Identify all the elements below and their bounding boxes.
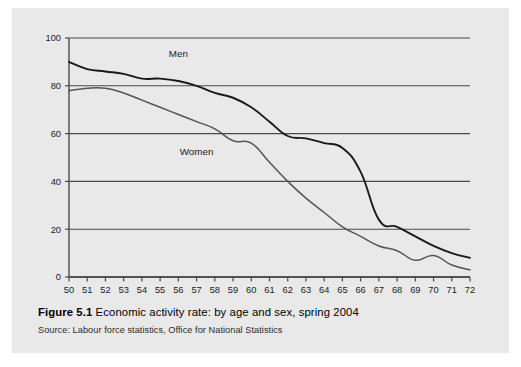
figure-source: Source: Labour force statistics, Office … — [38, 325, 488, 337]
x-tick-label: 55 — [155, 285, 165, 295]
x-tick-label: 61 — [264, 285, 274, 295]
series-lines — [69, 62, 470, 270]
chart-plot-area: 020406080100 505152535455565758596061626… — [12, 8, 509, 296]
series-label-women: Women — [180, 146, 214, 157]
y-tick-label: 100 — [45, 33, 61, 43]
x-tick-label: 63 — [301, 285, 311, 295]
x-tick-label: 54 — [137, 285, 147, 295]
x-tick-label: 60 — [246, 285, 256, 295]
figure-number: Figure 5.1 — [38, 306, 96, 318]
figure-caption-text: Economic activity rate: by age and sex, … — [96, 306, 359, 318]
x-tick-label: 72 — [465, 285, 475, 295]
x-tick-label: 51 — [82, 285, 92, 295]
series-label-men: Men — [169, 48, 188, 59]
y-tick-label: 0 — [56, 272, 61, 282]
y-tick-label: 40 — [51, 177, 61, 187]
x-tick-label: 68 — [392, 285, 402, 295]
x-tick-label: 62 — [283, 285, 293, 295]
figure-panel: 020406080100 505152535455565758596061626… — [12, 8, 509, 353]
x-tick-label: 65 — [337, 285, 347, 295]
line-chart: 020406080100 505152535455565758596061626… — [12, 8, 509, 296]
gridlines-group — [69, 38, 470, 277]
y-tick-labels: 020406080100 — [45, 33, 61, 282]
x-tick-label: 71 — [447, 285, 457, 295]
x-tick-label: 59 — [228, 285, 238, 295]
y-tick-label: 80 — [51, 81, 61, 91]
x-tick-label: 53 — [119, 285, 129, 295]
x-tick-label: 70 — [428, 285, 438, 295]
x-tick-label: 58 — [210, 285, 220, 295]
series-line-women — [69, 88, 470, 270]
x-tick-label: 67 — [374, 285, 384, 295]
x-tick-label: 50 — [64, 285, 74, 295]
series-line-men — [69, 62, 470, 258]
y-tick-label: 20 — [51, 225, 61, 235]
x-tick-labels: 5051525354555657585960616263646566676869… — [64, 285, 475, 295]
figure-caption: Figure 5.1 Economic activity rate: by ag… — [38, 305, 488, 319]
y-tick-label: 60 — [51, 129, 61, 139]
series-annotations: MenWomen — [169, 48, 214, 157]
x-tick-label: 64 — [319, 285, 329, 295]
x-tick-label: 56 — [173, 285, 183, 295]
x-tick-label: 69 — [410, 285, 420, 295]
x-tick-label: 52 — [100, 285, 110, 295]
caption-block: Figure 5.1 Economic activity rate: by ag… — [38, 305, 488, 337]
x-tick-label: 57 — [191, 285, 201, 295]
x-tick-label: 66 — [355, 285, 365, 295]
